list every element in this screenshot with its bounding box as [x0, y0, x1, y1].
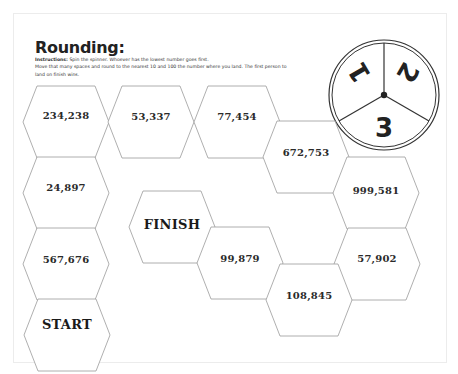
space-label: 108,845	[266, 290, 352, 301]
board-space-999581[interactable]: 999,581	[333, 157, 419, 229]
space-label: 57,902	[334, 253, 420, 264]
space-label: 567,676	[23, 254, 109, 265]
instructions-line-1: Spin the spinner. Whoever has the lowest…	[68, 57, 209, 62]
board-space-24897[interactable]: 24,897	[23, 157, 109, 229]
space-label: 999,581	[333, 185, 419, 196]
start-label: START	[24, 317, 110, 332]
board-space-53337[interactable]: 53,337	[108, 86, 194, 158]
worksheet-title: Rounding:	[35, 38, 125, 57]
space-label: 234,238	[23, 110, 109, 121]
instructions-text: Instructions: Spin the spinner. Whoever …	[35, 56, 297, 78]
board-space-567676[interactable]: 567,676	[23, 228, 109, 300]
hexagon-shape-icon	[108, 86, 194, 158]
space-label: 24,897	[23, 182, 109, 193]
instructions-label: Instructions:	[35, 57, 68, 62]
space-label: 53,337	[108, 111, 194, 122]
space-label: 99,879	[197, 253, 283, 264]
instructions-line-2: Move that many spaces and round to the n…	[35, 64, 287, 76]
hexagon-shape-icon	[23, 86, 109, 158]
board-space-start[interactable]: START	[24, 299, 110, 371]
hexagon-shape-icon	[23, 157, 109, 229]
hexagon-shape-icon	[24, 299, 110, 371]
board-space-108845[interactable]: 108,845	[266, 264, 352, 336]
board-space-234238[interactable]: 234,238	[23, 86, 109, 158]
spinner-segment-3: 3	[375, 113, 393, 143]
